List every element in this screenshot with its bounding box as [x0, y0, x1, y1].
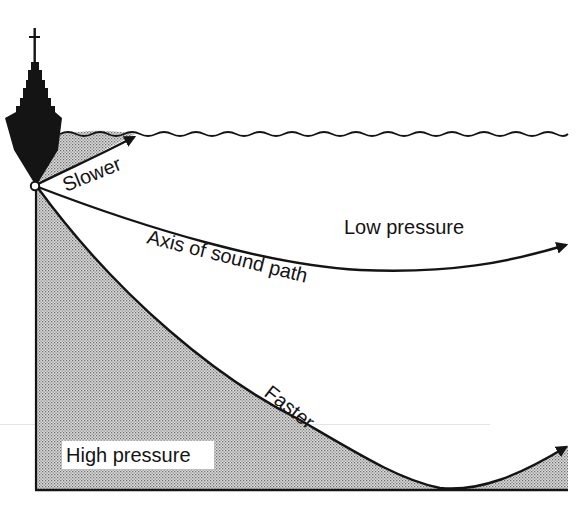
low-pressure-label: Low pressure: [344, 216, 464, 238]
axis-of-sound-path-label: Axis of sound path: [145, 226, 310, 287]
high-pressure-label: High pressure: [66, 444, 191, 466]
sound-path-diagram: Slower Axis of sound path Low pressure F…: [0, 0, 585, 512]
axis-of-sound-path-arrow: [38, 187, 566, 271]
sound-source-point: [31, 182, 39, 190]
wavy-sea-surface: [60, 132, 568, 136]
